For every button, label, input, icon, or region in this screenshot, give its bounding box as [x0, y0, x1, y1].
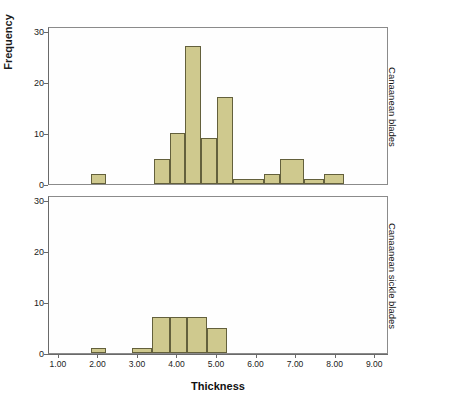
panel-strip-label-top-text: Canaanean blades	[387, 28, 398, 186]
bars-container-bottom	[49, 197, 387, 353]
histogram-bar	[187, 317, 207, 353]
y-axis-tick-mark	[44, 201, 48, 202]
histogram-bar	[170, 133, 186, 184]
y-axis-title: Frequency	[2, 0, 18, 112]
plot-area-top	[48, 27, 388, 185]
y-axis-tick-label: 0	[14, 181, 44, 189]
x-axis-tick-mark	[295, 354, 296, 358]
histogram-bar	[201, 138, 217, 184]
x-axis-tick-label: 7.00	[275, 359, 315, 369]
bars-container-top	[49, 28, 387, 184]
panel-canaanean-blades: 0102030	[48, 27, 388, 185]
x-axis-tick-mark	[374, 354, 375, 358]
x-axis-tick-label: 1.00	[38, 359, 78, 369]
y-axis-tick-label: 10	[14, 130, 44, 138]
y-axis-tick-mark	[44, 185, 48, 186]
x-axis-tick-mark	[335, 354, 336, 358]
y-axis-tick-label: 20	[14, 79, 44, 87]
x-axis-tick-mark	[58, 354, 59, 358]
plot-area-bottom	[48, 196, 388, 354]
x-axis-tick-mark	[216, 354, 217, 358]
panel-canaanean-sickle-blades: 0102030	[48, 196, 388, 354]
y-axis-tick-label: 10	[14, 299, 44, 307]
y-axis-tick-label: 30	[14, 197, 44, 205]
histogram-bar	[91, 174, 107, 184]
x-axis-tick-mark	[256, 354, 257, 358]
x-axis-title: Thickness	[48, 380, 388, 392]
histogram-bar	[280, 159, 304, 184]
histogram-bar	[264, 174, 280, 184]
histogram-chart: Frequency 0102030 0102030 1.002.003.004.…	[0, 0, 456, 408]
histogram-bar	[324, 174, 344, 184]
histogram-bar	[154, 159, 170, 184]
histogram-bar	[217, 97, 233, 184]
y-axis-tick-mark	[44, 134, 48, 135]
y-axis-tick-mark	[44, 32, 48, 33]
histogram-bar	[304, 179, 324, 184]
histogram-bar	[132, 348, 152, 353]
x-axis-tick-label: 9.00	[354, 359, 394, 369]
x-axis-tick-label: 4.00	[156, 359, 196, 369]
histogram-bar	[233, 179, 265, 184]
y-axis-tick-label: 20	[14, 248, 44, 256]
y-axis-tick-label: 0	[14, 350, 44, 358]
panel-strip-label-bottom: Canaanean sickle blades	[387, 197, 398, 355]
panel-strip-label-top: Canaanean blades	[387, 28, 398, 186]
y-axis-tick-mark	[44, 303, 48, 304]
x-axis-tick-label: 3.00	[117, 359, 157, 369]
x-axis-tick-label: 8.00	[315, 359, 355, 369]
panel-strip-label-bottom-text: Canaanean sickle blades	[387, 197, 398, 355]
histogram-bar	[170, 317, 188, 353]
histogram-bar	[152, 317, 170, 353]
histogram-bar	[91, 348, 107, 353]
y-axis-tick-mark	[44, 83, 48, 84]
x-axis-tick-label: 5.00	[196, 359, 236, 369]
histogram-bar	[185, 46, 201, 184]
histogram-bar	[207, 328, 227, 353]
y-axis-tick-label: 30	[14, 28, 44, 36]
y-axis-tick-mark	[44, 252, 48, 253]
x-axis-tick-mark	[137, 354, 138, 358]
x-axis-tick-mark	[176, 354, 177, 358]
x-axis-tick-label: 6.00	[236, 359, 276, 369]
x-axis-tick-label: 2.00	[77, 359, 117, 369]
x-axis: 1.002.003.004.005.006.007.008.009.00	[48, 354, 388, 355]
x-axis-tick-mark	[97, 354, 98, 358]
y-axis-title-label: Frequency	[2, 0, 14, 112]
